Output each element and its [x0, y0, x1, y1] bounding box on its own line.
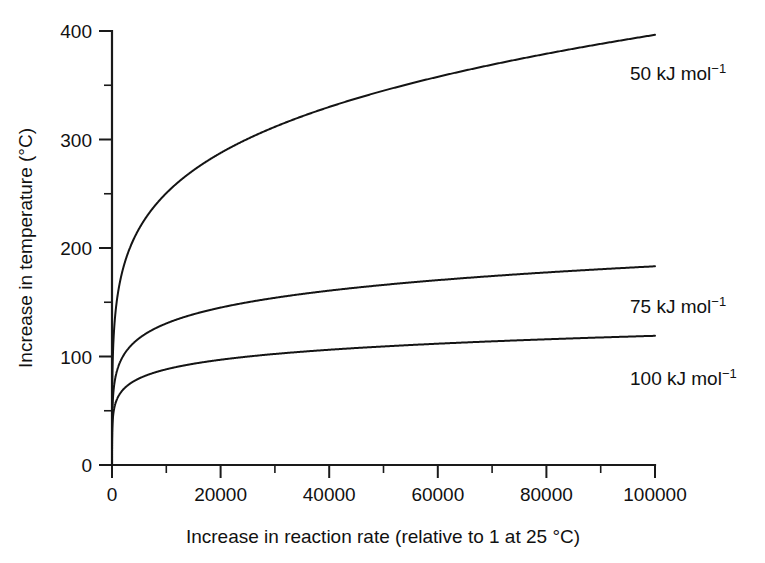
- x-tick-label-20000: 20000: [194, 484, 247, 505]
- svg-text:75 kJ mol−1: 75 kJ mol−1: [630, 294, 726, 317]
- y-axis-title: Increase in temperature (°C): [15, 128, 36, 368]
- axes-group: [112, 31, 655, 465]
- svg-text:50 kJ mol−1: 50 kJ mol−1: [630, 61, 726, 84]
- y-tick-label-400: 400: [60, 21, 92, 42]
- series-label-50kj-exponent: −1: [711, 61, 726, 76]
- series-label-50kj-text: 50 kJ mol: [630, 63, 711, 84]
- series-label-50kj: 50 kJ mol−1: [630, 61, 726, 84]
- x-tick-label-40000: 40000: [303, 484, 356, 505]
- series-label-75kj-exponent: −1: [711, 294, 726, 309]
- curve-100kj: [112, 336, 655, 465]
- y-tick-label-300: 300: [60, 130, 92, 151]
- series-label-100kj: 100 kJ mol−1: [630, 366, 737, 389]
- series-label-75kj-text: 75 kJ mol: [630, 296, 711, 317]
- curve-75kj: [112, 266, 655, 465]
- y-tick-label-200: 200: [60, 238, 92, 259]
- svg-text:100 kJ mol−1: 100 kJ mol−1: [630, 366, 737, 389]
- figure-container: 0 100 200 300 400 0 20000 40000 60000 80…: [0, 0, 765, 563]
- x-axis-title: Increase in reaction rate (relative to 1…: [186, 526, 580, 547]
- curve-50kj: [112, 35, 655, 465]
- series-label-100kj-text: 100 kJ mol: [630, 368, 722, 389]
- y-tick-label-0: 0: [81, 455, 92, 476]
- series-label-100kj-exponent: −1: [722, 366, 737, 381]
- curves-group: [112, 35, 655, 465]
- y-tick-labels: 0 100 200 300 400: [60, 21, 92, 476]
- y-axis-major-ticks: [99, 31, 112, 465]
- x-tick-label-80000: 80000: [520, 484, 573, 505]
- x-tick-labels: 0 20000 40000 60000 80000 100000: [107, 484, 687, 505]
- series-label-75kj: 75 kJ mol−1: [630, 294, 726, 317]
- x-tick-label-0: 0: [107, 484, 118, 505]
- x-tick-label-60000: 60000: [411, 484, 464, 505]
- x-axis-minor-ticks: [166, 465, 600, 473]
- line-chart: 0 100 200 300 400 0 20000 40000 60000 80…: [0, 0, 765, 563]
- x-tick-label-100000: 100000: [623, 484, 686, 505]
- y-tick-label-100: 100: [60, 347, 92, 368]
